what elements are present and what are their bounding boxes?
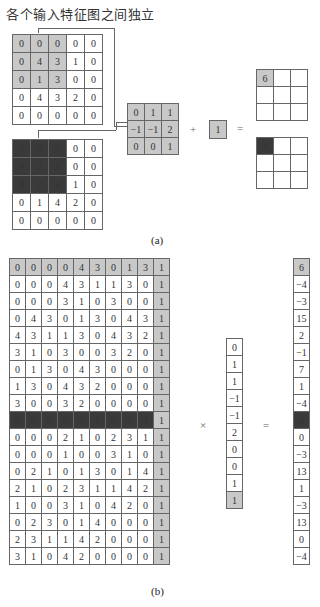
grid-cell: 3 xyxy=(49,71,67,89)
grid-cell: 0 xyxy=(138,276,154,293)
grid-cell: 0 xyxy=(67,140,85,158)
grid-cell: 1 xyxy=(90,480,106,497)
grid-cell: 1 xyxy=(154,514,170,531)
grid-cell: 0 xyxy=(13,194,31,212)
connector-line xyxy=(116,122,127,123)
grid-cell: 3 xyxy=(90,310,106,327)
output-map-2: 4 xyxy=(256,137,308,189)
grid-cell: 3 xyxy=(122,429,138,446)
grid-cell: 1 xyxy=(26,344,42,361)
grid-cell: 0 xyxy=(42,344,58,361)
grid-cell: 1 xyxy=(154,412,170,429)
output-map-1: 6 xyxy=(256,69,308,121)
grid-cell xyxy=(257,172,274,189)
grid-cell: 4 xyxy=(138,463,154,480)
grid-cell: 13 xyxy=(294,463,310,480)
grid-cell: 0 xyxy=(85,35,103,53)
grid-cell: 0 xyxy=(90,429,106,446)
grid-cell: 0 xyxy=(58,463,74,480)
grid-cell: −1 xyxy=(227,407,243,424)
grid-cell: 1 xyxy=(106,276,122,293)
grid-cell: 0 xyxy=(58,259,74,276)
grid-cell: 1 xyxy=(58,327,74,344)
grid-cell: 0 xyxy=(106,361,122,378)
grid-cell: 4 xyxy=(58,548,74,565)
grid-cell: 2 xyxy=(31,176,49,194)
grid-cell: 6 xyxy=(294,259,310,276)
grid-cell: 0 xyxy=(138,344,154,361)
grid-cell: 0 xyxy=(10,446,26,463)
equals-sign-b: = xyxy=(263,419,269,431)
grid-cell: 3 xyxy=(90,361,106,378)
grid-cell: 0 xyxy=(122,514,138,531)
grid-cell: 3 xyxy=(138,412,154,429)
grid-cell: 4 xyxy=(294,412,310,429)
grid-cell: 0 xyxy=(90,446,106,463)
grid-cell: −1 xyxy=(227,390,243,407)
grid-cell: 1 xyxy=(145,104,162,121)
connector-line xyxy=(114,28,115,126)
grid-cell: −1 xyxy=(128,121,145,138)
grid-cell: 0 xyxy=(122,378,138,395)
grid-cell: 2 xyxy=(31,158,49,176)
grid-cell: 15 xyxy=(294,310,310,327)
connector-line xyxy=(38,28,114,29)
grid-cell: 0 xyxy=(10,259,26,276)
grid-cell: 0 xyxy=(10,361,26,378)
connector-line xyxy=(116,122,117,130)
grid-cell: 3 xyxy=(122,276,138,293)
grid-cell: 1 xyxy=(294,378,310,395)
grid-cell: 2 xyxy=(106,429,122,446)
grid-cell: 1 xyxy=(90,276,106,293)
grid-cell: 1 xyxy=(42,327,58,344)
grid-cell: 0 xyxy=(10,276,26,293)
grid-cell: 2 xyxy=(74,548,90,565)
grid-cell: −4 xyxy=(294,276,310,293)
grid-cell: 7 xyxy=(294,361,310,378)
grid-cell: 3 xyxy=(49,176,67,194)
grid-cell: 2 xyxy=(10,480,26,497)
grid-cell: 4 xyxy=(74,531,90,548)
grid-cell: 1 xyxy=(154,548,170,565)
grid-cell: 0 xyxy=(90,395,106,412)
grid-cell: 4 xyxy=(74,361,90,378)
grid-cell: 0 xyxy=(42,429,58,446)
grid-cell: 0 xyxy=(106,378,122,395)
grid-cell: 1 xyxy=(154,480,170,497)
grid-cell: 2 xyxy=(122,344,138,361)
plus-sign: + xyxy=(190,123,196,135)
grid-cell: 0 xyxy=(42,395,58,412)
grid-cell: 2 xyxy=(58,429,74,446)
grid-cell: 3 xyxy=(42,361,58,378)
grid-cell: 3 xyxy=(10,395,26,412)
grid-cell: 1 xyxy=(90,412,106,429)
grid-cell: 1 xyxy=(162,104,179,121)
grid-cell: 0 xyxy=(138,293,154,310)
grid-cell: 1 xyxy=(227,475,243,492)
grid-cell xyxy=(274,70,291,87)
grid-cell: 13 xyxy=(294,514,310,531)
times-sign: × xyxy=(200,419,206,431)
grid-cell: 0 xyxy=(122,531,138,548)
grid-cell: 1 xyxy=(74,514,90,531)
grid-cell: 1 xyxy=(154,497,170,514)
grid-cell: 0 xyxy=(31,107,49,125)
grid-cell: 0 xyxy=(42,548,58,565)
grid-cell: 2 xyxy=(74,412,90,429)
grid-cell: 3 xyxy=(138,259,154,276)
grid-cell: 0 xyxy=(42,378,58,395)
grid-cell: 0 xyxy=(122,395,138,412)
grid-cell: 1 xyxy=(31,71,49,89)
input-feature-map-1: 0000004310013000432000000 xyxy=(12,34,103,125)
grid-cell: 1 xyxy=(74,310,90,327)
grid-cell: 0 xyxy=(42,259,58,276)
kernel-matrix: 011−1−12001 xyxy=(127,103,179,155)
grid-cell: 0 xyxy=(106,548,122,565)
grid-cell: 0 xyxy=(26,446,42,463)
grid-cell: 0 xyxy=(13,71,31,89)
grid-cell: 1 xyxy=(294,480,310,497)
grid-cell: 4 xyxy=(90,514,106,531)
grid-cell xyxy=(291,172,308,189)
grid-cell: 0 xyxy=(13,158,31,176)
grid-cell: 1 xyxy=(227,492,243,509)
